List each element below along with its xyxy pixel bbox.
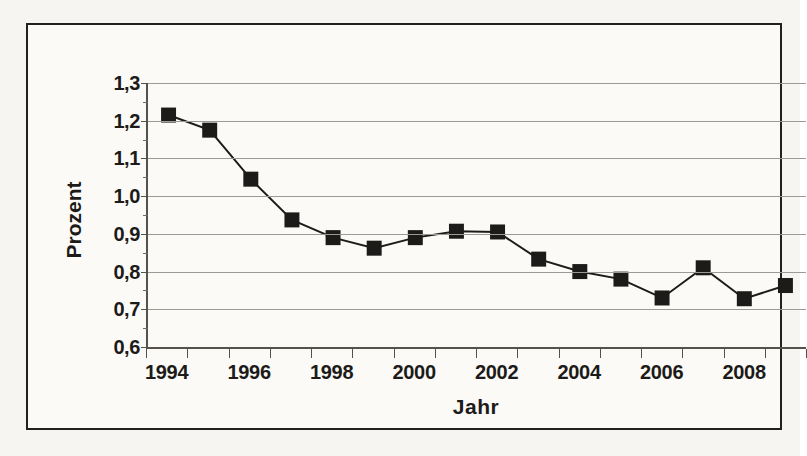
x-axis-tick xyxy=(270,349,271,358)
data-point-marker xyxy=(202,123,217,138)
x-axis-tick-label: 2004 xyxy=(557,361,600,384)
y-axis-minor-tick xyxy=(143,140,148,141)
y-axis-minor-tick xyxy=(143,290,148,291)
x-axis-tick xyxy=(517,349,518,358)
plot-area xyxy=(146,83,806,347)
data-point-marker xyxy=(778,278,793,293)
data-point-marker xyxy=(243,172,258,187)
data-point-marker xyxy=(326,230,341,245)
y-axis-tick xyxy=(141,309,148,310)
x-axis-tick xyxy=(559,349,560,358)
x-axis-tick-label: 2006 xyxy=(640,361,683,384)
y-axis-tick xyxy=(141,121,148,122)
data-point-marker xyxy=(531,252,546,267)
data-point-marker xyxy=(449,224,464,239)
series-line-chart xyxy=(148,83,806,347)
data-point-marker xyxy=(367,241,382,256)
y-axis-tick xyxy=(141,234,148,235)
y-axis-tick-label: 1,0 xyxy=(68,185,140,208)
x-axis-tick xyxy=(435,349,436,358)
y-axis-tick-label: 1,3 xyxy=(68,72,140,95)
y-axis-tick-label: 1,1 xyxy=(68,147,140,170)
x-axis-title: Jahr xyxy=(146,395,806,419)
y-axis-tick xyxy=(141,83,148,84)
gridline xyxy=(148,121,806,122)
x-axis-tick-label: 2000 xyxy=(392,361,435,384)
x-axis-tick xyxy=(187,349,188,358)
x-axis-tick xyxy=(476,349,477,358)
x-axis-tick-label: 1996 xyxy=(227,361,270,384)
gridline xyxy=(148,309,806,310)
y-axis-tick xyxy=(141,272,148,273)
x-axis-tick-label: 2008 xyxy=(722,361,765,384)
data-point-marker xyxy=(490,224,505,239)
y-axis-minor-tick xyxy=(143,215,148,216)
x-axis-tick-labels: 19941996199820002002200420062008 xyxy=(146,361,806,389)
x-axis-ticks xyxy=(146,349,806,359)
y-axis-tick-label: 0,9 xyxy=(68,222,140,245)
y-axis-tick-label: 1,2 xyxy=(68,109,140,132)
x-axis-tick xyxy=(229,349,230,358)
data-point-marker xyxy=(613,272,628,287)
gridline xyxy=(148,234,806,235)
data-point-marker xyxy=(737,291,752,306)
x-axis-tick xyxy=(311,349,312,358)
y-axis-minor-tick xyxy=(143,328,148,329)
x-axis-tick xyxy=(600,349,601,358)
y-axis-tick-labels: 0,60,70,80,91,01,11,21,3 xyxy=(68,83,140,347)
x-axis-tick xyxy=(641,349,642,358)
y-axis-minor-tick xyxy=(143,253,148,254)
x-axis-tick-label: 1998 xyxy=(310,361,353,384)
data-point-marker xyxy=(696,260,711,275)
x-axis-tick xyxy=(765,349,766,358)
x-axis-tick xyxy=(682,349,683,358)
y-axis-tick xyxy=(141,196,148,197)
gridline xyxy=(148,158,806,159)
gridline xyxy=(148,196,806,197)
data-point-marker xyxy=(408,230,423,245)
data-point-marker xyxy=(284,212,299,227)
y-axis-tick-label: 0,8 xyxy=(68,260,140,283)
figure-frame: Prozent 0,60,70,80,91,01,11,21,3 1994199… xyxy=(26,23,782,430)
x-axis-tick xyxy=(352,349,353,358)
y-axis-minor-tick xyxy=(143,102,148,103)
data-point-marker xyxy=(655,290,670,305)
y-axis-tick-label: 0,6 xyxy=(68,336,140,359)
gridline xyxy=(148,83,806,84)
y-axis-tick-label: 0,7 xyxy=(68,298,140,321)
y-axis-minor-tick xyxy=(143,177,148,178)
x-axis-tick xyxy=(146,349,147,358)
y-axis-tick xyxy=(141,158,148,159)
x-axis-tick xyxy=(394,349,395,358)
x-axis-tick-label: 2002 xyxy=(475,361,518,384)
gridline xyxy=(148,272,806,273)
x-axis-tick-label: 1994 xyxy=(145,361,188,384)
x-axis-tick xyxy=(724,349,725,358)
